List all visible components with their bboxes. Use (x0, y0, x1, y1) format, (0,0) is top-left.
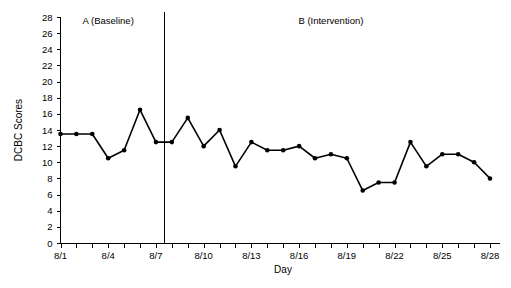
x-tick-marks (62, 244, 491, 248)
x-tick-label: 8/13 (242, 250, 261, 261)
data-point (106, 156, 111, 161)
x-axis-title: Day (274, 264, 292, 275)
data-point (90, 132, 95, 137)
y-tick-label: 0 (47, 238, 52, 249)
y-tick-label: 2 (47, 221, 52, 232)
x-tick-label: 8/4 (102, 250, 115, 261)
data-point (345, 156, 350, 161)
x-axis-group: 8/18/48/78/108/138/168/198/228/258/28 Da… (54, 244, 500, 276)
data-point (265, 148, 270, 153)
data-point (456, 152, 461, 157)
y-tick-label: 16 (42, 108, 53, 119)
y-tick-label: 10 (42, 157, 53, 168)
data-point (201, 144, 206, 149)
x-tick-label: 8/10 (194, 250, 213, 261)
data-point (440, 152, 445, 157)
y-tick-label: 20 (42, 76, 53, 87)
y-axis-title: DCBC Scores (13, 99, 24, 161)
data-point (58, 132, 63, 137)
data-series-group (58, 108, 492, 193)
data-point (170, 140, 175, 145)
x-tick-label: 8/25 (433, 250, 452, 261)
data-point (376, 180, 381, 185)
data-point (281, 148, 286, 153)
y-axis-group: 0246810121416182022242628 DCBC Scores (13, 12, 61, 249)
data-point (408, 140, 413, 145)
data-point (424, 164, 429, 169)
y-tick-marks (57, 18, 61, 244)
data-point (392, 180, 397, 185)
x-tick-label: 8/16 (290, 250, 309, 261)
y-tick-label: 28 (42, 12, 53, 23)
data-point (233, 164, 238, 169)
line-chart: 0246810121416182022242628 DCBC Scores 8/… (0, 0, 511, 288)
chart-container: 0246810121416182022242628 DCBC Scores 8/… (0, 0, 511, 288)
data-point (472, 160, 477, 165)
x-tick-label: 8/19 (338, 250, 357, 261)
data-point (122, 148, 127, 153)
data-point (138, 108, 143, 113)
x-tick-label: 8/28 (481, 250, 500, 261)
y-tick-labels: 0246810121416182022242628 (42, 12, 53, 249)
data-point (488, 176, 493, 181)
y-tick-label: 18 (42, 92, 53, 103)
x-tick-label: 8/22 (385, 250, 404, 261)
y-tick-label: 8 (47, 173, 52, 184)
y-tick-label: 14 (42, 125, 53, 136)
data-point (313, 156, 318, 161)
data-point (249, 140, 254, 145)
y-tick-label: 22 (42, 60, 53, 71)
phase-b-label: B (Intervention) (298, 15, 363, 26)
y-tick-label: 4 (47, 205, 52, 216)
data-point (329, 152, 334, 157)
data-point (74, 132, 79, 137)
data-point (360, 188, 365, 193)
x-tick-labels: 8/18/48/78/108/138/168/198/228/258/28 (54, 250, 499, 261)
data-point (185, 116, 190, 121)
data-point (297, 144, 302, 149)
x-tick-label: 8/1 (54, 250, 67, 261)
y-tick-label: 12 (42, 141, 53, 152)
y-tick-label: 6 (47, 189, 52, 200)
data-point (217, 128, 222, 133)
data-point (154, 140, 159, 145)
phase-change-group: A (Baseline) B (Intervention) (83, 12, 364, 243)
phase-a-label: A (Baseline) (83, 15, 134, 26)
y-tick-label: 26 (42, 28, 53, 39)
x-tick-label: 8/7 (149, 250, 162, 261)
y-tick-label: 24 (42, 44, 53, 55)
